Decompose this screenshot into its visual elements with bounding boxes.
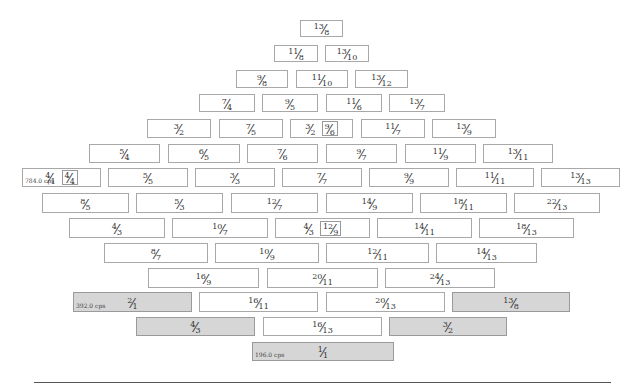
ratio-cell-4-3[interactable]: 4⁄312⁄9 [275,218,370,238]
denominator: 11 [464,204,474,212]
ratio-cell-7-5[interactable]: 7⁄5 [219,119,283,138]
ratio-cell-11-7[interactable]: 11⁄7 [361,119,425,138]
ratio-label: 9⁄9 [404,171,414,184]
ratio-cell-3-2[interactable]: 3⁄2 [389,317,507,336]
ratio-label: 14⁄9 [362,197,377,210]
ratio-label: 11⁄7 [385,122,400,135]
ratio-label: 5⁄4 [119,147,129,160]
ratio-cell-24-13[interactable]: 24⁄13 [385,268,495,288]
ratio-cell-4-1[interactable]: 4⁄14⁄4784.0 cps [22,168,101,187]
unreduced-ratio-label: 12⁄9 [320,221,341,236]
ratio-label: 10⁄7 [212,222,227,235]
ratio-cell-9-5[interactable]: 9⁄5 [262,94,318,112]
ratio-cell-14-9[interactable]: 14⁄9 [326,193,413,213]
ratio-cell-4-3[interactable]: 4⁄3 [69,218,165,238]
denominator: 1 [133,303,138,311]
denominator: 6 [330,129,335,137]
ratio-cell-13-7[interactable]: 13⁄7 [389,94,445,112]
ratio-cell-5-5[interactable]: 5⁄5 [108,168,188,187]
denominator: 13 [557,204,567,212]
ratio-cell-7-6[interactable]: 7⁄6 [247,144,318,163]
ratio-label: 5⁄5 [143,171,153,184]
ratio-cell-16-9[interactable]: 16⁄9 [148,268,259,288]
ratio-cell-10-9[interactable]: 10⁄9 [215,243,319,263]
ratio-cell-20-13[interactable]: 20⁄13 [326,292,445,312]
ratio-cell-16-11[interactable]: 16⁄11 [199,292,318,312]
ratio-cell-5-3[interactable]: 5⁄3 [136,193,223,213]
ratio-cell-22-13[interactable]: 22⁄13 [514,193,600,213]
ratio-cell-12-7[interactable]: 12⁄7 [231,193,318,213]
ratio-cell-13-12[interactable]: 13⁄12 [355,70,408,88]
denominator: 2 [179,129,184,137]
ratio-cell-3-2[interactable]: 3⁄2 [147,119,211,138]
ratio-cell-20-11[interactable]: 20⁄11 [267,268,378,288]
ratio-cell-11-9[interactable]: 11⁄9 [405,144,476,163]
ratio-cell-11-11[interactable]: 11⁄11 [456,168,534,187]
ratio-cell-11-10[interactable]: 11⁄10 [296,70,348,88]
denominator: 13 [323,327,333,335]
denominator: 12 [382,80,392,88]
ratio-label: 7⁄5 [246,122,256,135]
ratio-label: 12⁄7 [267,197,282,210]
ratio-label: 3⁄2 [174,122,184,135]
denominator: 9 [206,279,211,287]
ratio-label: 4⁄3 [112,222,122,235]
ratio-label: 20⁄11 [312,272,333,285]
ratio-cell-10-7[interactable]: 10⁄7 [172,218,268,238]
ratio-cell-3-2[interactable]: 3⁄29⁄6 [290,119,353,138]
ratio-cell-13-8[interactable]: 13⁄8 [300,20,343,37]
ratio-cell-1-1[interactable]: 1⁄1196.0 cps [252,342,394,361]
baseline-divider [34,382,611,383]
ratio-cell-14-11[interactable]: 14⁄11 [377,218,472,238]
frequency-label: 784.0 cps [25,177,54,184]
ratio-cell-11-6[interactable]: 11⁄6 [326,94,382,112]
denominator: 5 [148,178,153,186]
ratio-cell-9-8[interactable]: 9⁄8 [236,70,288,88]
ratio-cell-11-8[interactable]: 11⁄8 [274,45,318,62]
ratio-cell-13-10[interactable]: 13⁄10 [325,45,369,62]
ratio-label: 10⁄9 [259,247,274,260]
ratio-cell-14-13[interactable]: 14⁄13 [436,243,537,263]
ratio-label: 11⁄11 [485,171,506,184]
denominator: 3 [235,178,240,186]
ratio-cell-18-11[interactable]: 18⁄11 [420,193,507,213]
ratio-cell-12-11[interactable]: 12⁄11 [326,243,429,263]
ratio-cell-3-3[interactable]: 3⁄3 [195,168,275,187]
ratio-cell-4-3[interactable]: 4⁄3 [136,317,255,336]
ratio-label: 3⁄2 [443,320,453,333]
ratio-label: 14⁄11 [414,222,435,235]
denominator: 4 [125,154,130,162]
ratio-cell-9-9[interactable]: 9⁄9 [369,168,449,187]
ratio-cell-13-9[interactable]: 13⁄9 [432,119,496,138]
ratio-cell-7-7[interactable]: 7⁄7 [282,168,362,187]
ratio-label: 20⁄13 [375,296,396,309]
denominator: 9 [443,154,448,162]
denominator: 3 [309,229,314,237]
frequency-label: 392.0 cps [76,302,105,309]
ratio-cell-18-13[interactable]: 18⁄13 [479,218,574,238]
ratio-label: 18⁄11 [453,197,474,210]
denominator: 8 [324,29,329,37]
ratio-label: 1⁄1 [318,345,328,358]
denominator: 3 [196,327,201,335]
ratio-cell-9-7[interactable]: 9⁄7 [326,144,397,163]
ratio-label: 12⁄11 [367,247,388,260]
ratio-label: 4⁄3 [304,222,314,235]
unreduced-ratio-label: 4⁄4 [62,170,78,185]
ratio-cell-16-13[interactable]: 16⁄13 [263,317,382,336]
ratio-cell-5-4[interactable]: 5⁄4 [89,144,160,163]
ratio-label: 9⁄5 [285,97,295,110]
ratio-label: 9⁄8 [257,73,267,86]
ratio-cell-13-13[interactable]: 13⁄13 [541,168,620,187]
ratio-cell-8-7[interactable]: 8⁄7 [104,243,208,263]
ratio-cell-13-8[interactable]: 13⁄8 [452,292,570,312]
ratio-cell-2-1[interactable]: 2⁄1392.0 cps [73,292,192,312]
denominator: 3 [180,204,185,212]
ratio-cell-8-5[interactable]: 8⁄5 [42,193,129,213]
ratio-cell-7-4[interactable]: 7⁄4 [199,94,255,112]
ratio-label: 7⁄6 [277,147,287,160]
ratio-cell-6-5[interactable]: 6⁄5 [168,144,240,163]
denominator: 5 [86,204,91,212]
ratio-cell-13-11[interactable]: 13⁄11 [483,144,553,163]
ratio-label: 16⁄11 [248,296,269,309]
